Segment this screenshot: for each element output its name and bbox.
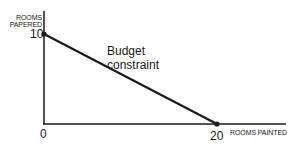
chart-canvas (0, 0, 298, 146)
x-axis-label: ROOMS PAINTED (230, 129, 287, 136)
x-intercept-point (214, 121, 219, 126)
budget-constraint-label-line1: Budget (107, 44, 145, 58)
budget-constraint-label-line2: constraint (107, 58, 159, 72)
y-tick-10: 10 (30, 28, 43, 40)
x-tick-20: 20 (210, 130, 223, 142)
y-axis-label-line1: ROOMS (16, 14, 42, 21)
x-tick-0: 0 (40, 128, 47, 140)
